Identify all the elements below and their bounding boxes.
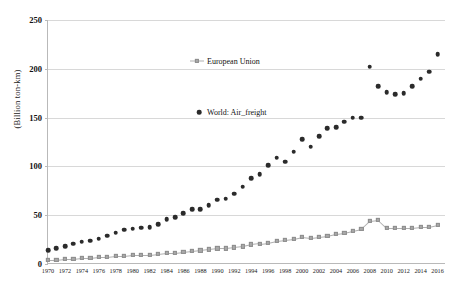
data-point-eu — [164, 251, 168, 255]
data-point-eu — [266, 240, 270, 244]
gridline — [48, 69, 445, 70]
data-point-eu — [46, 258, 50, 262]
data-point-eu — [190, 249, 194, 253]
data-point-eu — [300, 235, 304, 239]
data-point-world — [427, 69, 432, 74]
y-tick-label: 100 — [14, 161, 42, 171]
data-point-eu — [198, 248, 202, 252]
data-point-world — [207, 203, 212, 208]
data-point-eu — [325, 234, 329, 238]
data-point-eu — [419, 225, 423, 229]
data-point-eu — [114, 254, 118, 258]
y-axis-title: (Billion ton-km) — [12, 44, 22, 154]
y-tick-mark — [45, 69, 48, 70]
data-point-world — [410, 84, 415, 89]
y-tick-label: 200 — [14, 63, 42, 73]
data-point-world — [283, 159, 288, 164]
x-tick-label: 2012 — [397, 267, 409, 274]
data-point-world — [164, 217, 169, 222]
gridline — [48, 215, 445, 216]
data-point-world — [367, 65, 372, 70]
data-point-eu — [249, 242, 253, 246]
data-point-eu — [308, 236, 312, 240]
y-tick-label: 0 — [14, 259, 42, 269]
y-tick-label: 250 — [14, 15, 42, 25]
data-point-eu — [435, 223, 439, 227]
data-point-eu — [291, 237, 295, 241]
data-point-eu — [410, 226, 414, 230]
data-point-world — [308, 145, 313, 150]
data-point-world — [351, 115, 356, 120]
data-point-eu — [131, 253, 135, 257]
data-point-eu — [402, 226, 406, 230]
data-point-world — [139, 226, 144, 231]
data-point-world — [359, 115, 364, 120]
data-point-world — [300, 137, 305, 142]
x-tick-label: 2002 — [313, 267, 325, 274]
data-point-world — [342, 119, 347, 124]
data-point-eu — [393, 226, 397, 230]
data-point-world — [249, 176, 254, 181]
data-point-world — [130, 227, 135, 232]
x-tick-label: 1990 — [211, 267, 223, 274]
x-tick-label: 1994 — [245, 267, 257, 274]
x-tick-label: 1978 — [110, 267, 122, 274]
data-point-world — [113, 230, 118, 235]
data-point-eu — [71, 257, 75, 261]
x-tick-label: 2006 — [347, 267, 359, 274]
x-tick-label: 1984 — [160, 267, 172, 274]
data-point-world — [325, 126, 330, 131]
data-point-eu — [317, 235, 321, 239]
data-point-eu — [54, 258, 58, 262]
legend-marker-eu — [195, 59, 199, 63]
x-tick-label: 1982 — [143, 267, 155, 274]
data-point-world — [274, 155, 279, 160]
data-point-world — [401, 91, 406, 96]
x-tick-label: 2004 — [330, 267, 342, 274]
x-tick-label: 1986 — [177, 267, 189, 274]
gridline — [48, 166, 445, 167]
plot-area: 050100150200250 197019721974197619781980… — [47, 20, 445, 264]
data-point-eu — [215, 246, 219, 250]
data-point-world — [190, 207, 195, 212]
data-point-eu — [97, 255, 101, 259]
data-point-eu — [224, 246, 228, 250]
x-tick-label: 1970 — [42, 267, 54, 274]
x-tick-label: 1976 — [93, 267, 105, 274]
data-point-eu — [342, 231, 346, 235]
data-point-eu — [156, 252, 160, 256]
data-point-world — [173, 215, 178, 220]
y-tick-mark — [45, 118, 48, 119]
data-point-world — [156, 222, 161, 227]
y-tick-label: 150 — [14, 112, 42, 122]
x-tick-label: 2016 — [431, 267, 443, 274]
x-tick-label: 2000 — [296, 267, 308, 274]
data-point-eu — [385, 226, 389, 230]
data-point-world — [240, 185, 245, 190]
legend-label-eu: European Union — [207, 57, 260, 66]
data-point-eu — [207, 247, 211, 251]
data-point-eu — [88, 256, 92, 260]
x-tick-label: 1998 — [279, 267, 291, 274]
data-point-world — [88, 238, 93, 243]
data-point-eu — [359, 227, 363, 231]
data-point-world — [71, 241, 76, 246]
x-tick-label: 1988 — [194, 267, 206, 274]
y-tick-mark — [45, 264, 48, 265]
data-point-eu — [63, 257, 67, 261]
data-point-eu — [80, 256, 84, 260]
data-point-eu — [427, 225, 431, 229]
data-point-world — [46, 248, 51, 253]
x-tick-label: 1972 — [59, 267, 71, 274]
data-point-world — [97, 236, 102, 241]
data-point-world — [232, 191, 237, 196]
data-point-eu — [258, 241, 262, 245]
data-point-world — [266, 163, 271, 168]
data-point-world — [181, 211, 186, 216]
gridline — [48, 20, 445, 21]
data-point-eu — [139, 253, 143, 257]
y-tick-mark — [45, 215, 48, 216]
data-point-world — [384, 90, 389, 95]
x-tick-label: 1996 — [262, 267, 274, 274]
data-point-world — [257, 172, 262, 177]
